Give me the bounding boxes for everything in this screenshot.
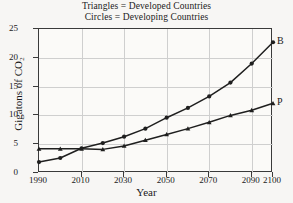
- x-tick-mark: [272, 172, 273, 177]
- series-label-b: B: [277, 36, 284, 46]
- legend-note-triangles: Triangles = Developed Countries: [0, 1, 293, 11]
- x-tick-label: 2100: [252, 176, 292, 185]
- data-point-b: [186, 106, 190, 110]
- y-tick-mark: [33, 172, 38, 173]
- data-point-b: [250, 61, 254, 65]
- data-point-b: [37, 160, 41, 164]
- y-tick-mark: [33, 28, 38, 29]
- data-point-b: [143, 127, 147, 131]
- x-tick-mark: [208, 172, 209, 177]
- legend-note-circles: Circles = Developing Countries: [0, 12, 293, 22]
- chart-container: Triangles = Developed Countries Circles …: [0, 0, 293, 203]
- data-point-b: [101, 141, 105, 145]
- data-point-b: [207, 94, 211, 98]
- series-label-p: P: [277, 97, 283, 107]
- plot-area: [38, 28, 272, 172]
- data-point-b: [165, 116, 169, 120]
- y-tick-mark: [33, 57, 38, 58]
- x-axis-title: Year: [0, 186, 293, 198]
- x-tick-mark: [166, 172, 167, 177]
- x-tick-mark: [81, 172, 82, 177]
- x-tick-label: 2030: [103, 176, 143, 185]
- data-point-b: [58, 156, 62, 160]
- series-layer: [39, 29, 273, 173]
- x-tick-label: 2010: [61, 176, 101, 185]
- x-tick-label: 1990: [18, 176, 58, 185]
- x-tick-mark: [123, 172, 124, 177]
- y-tick-label: 0: [0, 168, 18, 177]
- series-line-p: [39, 103, 273, 149]
- data-point-b: [122, 135, 126, 139]
- data-point-b: [271, 40, 275, 44]
- x-tick-label: 2050: [146, 176, 186, 185]
- y-tick-mark: [33, 143, 38, 144]
- data-point-b: [228, 80, 232, 84]
- series-line-b: [39, 42, 273, 162]
- x-tick-label: 2070: [188, 176, 228, 185]
- y-tick-mark: [33, 114, 38, 115]
- y-axis-title: Gigatons of CO₂: [12, 24, 24, 164]
- y-tick-mark: [33, 86, 38, 87]
